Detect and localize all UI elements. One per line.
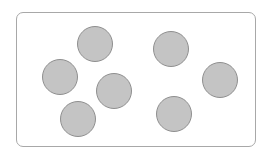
circle [202, 62, 238, 98]
diagram-canvas [0, 0, 268, 155]
circle [77, 26, 113, 62]
circle [42, 59, 78, 95]
circle [60, 101, 96, 137]
circle [153, 31, 189, 67]
circle [96, 73, 132, 109]
circle [156, 96, 192, 132]
